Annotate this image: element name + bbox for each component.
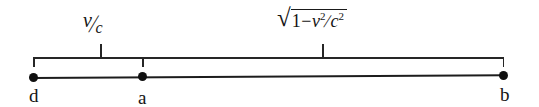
point-dot-a — [138, 72, 147, 81]
radicand-minus: − — [301, 11, 311, 31]
relativity-diagram: v/c √ 1−v2/c2 d a b — [0, 0, 539, 107]
callout-tick-velocity-ratio — [100, 44, 102, 58]
label-velocity-ratio: v/c — [83, 13, 103, 33]
point-label-a: a — [138, 88, 146, 107]
radicand-c-exponent: 2 — [338, 10, 344, 22]
velocity-ratio-denominator: c — [95, 19, 102, 36]
callout-tick-lorentz-factor — [322, 44, 324, 58]
axis-line-d-to-b — [33, 74, 504, 79]
measurement-bracket-rule — [33, 57, 504, 59]
bracket-end-tick-left — [33, 57, 35, 67]
point-label-d: d — [29, 86, 39, 105]
bracket-divider-tick-a — [142, 57, 144, 67]
point-dot-b — [499, 71, 508, 80]
bracket-end-tick-right — [503, 57, 505, 67]
radical-sign-icon: √ — [277, 8, 291, 28]
radicand-one: 1 — [292, 11, 301, 31]
point-label-b: b — [500, 85, 510, 104]
radicand-v: v — [312, 11, 320, 31]
point-dot-d — [29, 73, 38, 82]
label-lorentz-factor: √ 1−v2/c2 — [277, 7, 347, 28]
radicand: 1−v2/c2 — [291, 9, 347, 30]
